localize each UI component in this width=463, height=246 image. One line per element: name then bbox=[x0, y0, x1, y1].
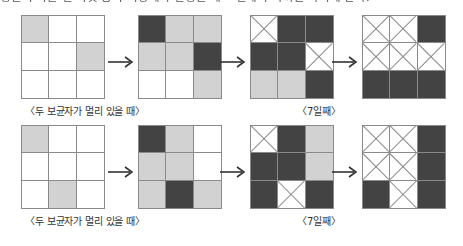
grid-cell bbox=[251, 43, 278, 70]
header-text: 병원이 되는 일 딱깃 중의 저상에서 일정을 때 그린에서 가까는 자리에 같… bbox=[0, 0, 463, 4]
stage-caption: 〈14일째〉 bbox=[448, 215, 463, 228]
grid-cell bbox=[22, 126, 49, 153]
diagram-stage: 〈14일째〉 bbox=[250, 125, 336, 209]
infection-grid bbox=[250, 125, 334, 209]
grid-cell bbox=[22, 71, 49, 98]
grid-cell bbox=[390, 43, 417, 70]
grid-cell bbox=[363, 153, 390, 180]
grid-cell bbox=[418, 181, 445, 208]
grid-cell bbox=[306, 16, 333, 43]
grid-cell bbox=[251, 16, 278, 43]
grid-cell bbox=[166, 181, 193, 208]
grid-cell bbox=[390, 126, 417, 153]
grid-cell bbox=[278, 71, 305, 98]
grid-cell bbox=[278, 126, 305, 153]
grid-cell bbox=[194, 181, 221, 208]
grid-cell bbox=[49, 181, 76, 208]
grid-cell bbox=[194, 43, 221, 70]
grid-cell bbox=[390, 181, 417, 208]
grid-cell bbox=[77, 16, 104, 43]
grid-cell bbox=[166, 16, 193, 43]
arrow-right-icon bbox=[332, 55, 360, 69]
grid-cell bbox=[49, 126, 76, 153]
grid-cell bbox=[77, 126, 104, 153]
diagram-stage: 〈21일째〉 bbox=[362, 125, 448, 209]
grid-cell bbox=[278, 43, 305, 70]
stage-caption: 〈14일째〉 bbox=[448, 105, 463, 118]
grid-cell bbox=[278, 16, 305, 43]
grid-cell bbox=[418, 126, 445, 153]
grid-cell bbox=[166, 71, 193, 98]
grid-cell bbox=[363, 181, 390, 208]
grid-cell bbox=[418, 16, 445, 43]
grid-cell bbox=[390, 153, 417, 180]
arrow-right-icon bbox=[108, 165, 136, 179]
grid-cell bbox=[194, 153, 221, 180]
grid-cell bbox=[363, 43, 390, 70]
diagram-row: 〈두 보균자가 멀리 있을 때〉 〈7일째〉 bbox=[0, 13, 463, 123]
grid-cell bbox=[49, 43, 76, 70]
grid-cell bbox=[22, 43, 49, 70]
infection-grid bbox=[21, 125, 105, 209]
grid-cell bbox=[251, 181, 278, 208]
grid-cell bbox=[166, 43, 193, 70]
diagram-stage: 〈7일째〉 bbox=[138, 15, 224, 99]
infection-grid bbox=[138, 125, 222, 209]
arrow-right-icon bbox=[220, 165, 248, 179]
arrow-right-icon bbox=[108, 55, 136, 69]
infection-grid bbox=[362, 125, 446, 209]
grid-cell bbox=[49, 71, 76, 98]
grid-cell bbox=[306, 126, 333, 153]
infection-grid bbox=[138, 15, 222, 99]
diagram-stage: 〈7일째〉 bbox=[138, 125, 224, 209]
grid-cell bbox=[278, 153, 305, 180]
infection-grid bbox=[362, 15, 446, 99]
grid-cell bbox=[166, 153, 193, 180]
diagram-stage: 〈14일째〉 bbox=[250, 15, 336, 99]
grid-cell bbox=[49, 16, 76, 43]
diagram-stage: 〈21일째〉 bbox=[362, 15, 448, 99]
stage-caption: 〈두 보균자가 멀리 있을 때〉 bbox=[0, 215, 180, 228]
diagram-stage: 〈두 보균자가 멀리 있을 때〉 bbox=[21, 15, 107, 99]
grid-cell bbox=[77, 181, 104, 208]
stage-caption: 〈7일째〉 bbox=[224, 105, 414, 118]
grid-cell bbox=[139, 71, 166, 98]
arrow-right-icon bbox=[332, 165, 360, 179]
grid-cell bbox=[194, 71, 221, 98]
stage-caption: 〈두 보균자가 멀리 있을 때〉 bbox=[0, 105, 180, 118]
grid-cell bbox=[49, 153, 76, 180]
grid-cell bbox=[139, 181, 166, 208]
infection-grid bbox=[250, 15, 334, 99]
grid-cell bbox=[306, 43, 333, 70]
grid-cell bbox=[22, 181, 49, 208]
grid-cell bbox=[363, 126, 390, 153]
grid-cell bbox=[306, 181, 333, 208]
arrow-right-icon bbox=[220, 55, 248, 69]
grid-cell bbox=[418, 43, 445, 70]
grid-cell bbox=[278, 181, 305, 208]
grid-cell bbox=[194, 126, 221, 153]
grid-cell bbox=[390, 16, 417, 43]
stage-caption: 〈7일째〉 bbox=[224, 215, 414, 228]
diagram-row: 〈두 보균자가 멀리 있을 때〉 〈7일째〉 bbox=[0, 123, 463, 233]
grid-cell bbox=[77, 43, 104, 70]
grid-cell bbox=[166, 126, 193, 153]
grid-cell bbox=[251, 126, 278, 153]
grid-cell bbox=[306, 71, 333, 98]
grid-cell bbox=[22, 16, 49, 43]
grid-cell bbox=[390, 71, 417, 98]
grid-cell bbox=[77, 71, 104, 98]
grid-cell bbox=[77, 153, 104, 180]
grid-cell bbox=[194, 16, 221, 43]
grid-cell bbox=[418, 71, 445, 98]
grid-cell bbox=[251, 153, 278, 180]
grid-cell bbox=[418, 153, 445, 180]
grid-cell bbox=[363, 71, 390, 98]
grid-cell bbox=[22, 153, 49, 180]
grid-cell bbox=[139, 126, 166, 153]
infection-grid bbox=[21, 15, 105, 99]
grid-cell bbox=[139, 153, 166, 180]
grid-cell bbox=[251, 71, 278, 98]
grid-cell bbox=[139, 43, 166, 70]
grid-cell bbox=[139, 16, 166, 43]
